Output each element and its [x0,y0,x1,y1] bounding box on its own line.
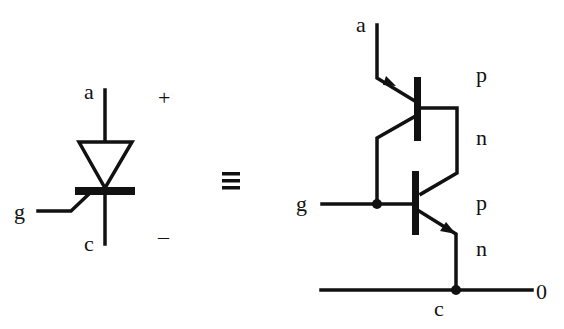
label-layer-p2: p [476,190,487,215]
scr-symbol: a + g c – [14,79,170,256]
equivalent-circuit: a g c 0 p n p n [296,12,547,321]
npn-transistor [412,171,456,290]
label-layer-n1: n [476,125,487,150]
pnp-emitter-arrow [383,76,396,86]
label-gate: g [296,191,307,216]
label-plus: + [158,85,170,110]
pnp-base-to-npn-collector [421,108,457,194]
label-anode: a [356,12,366,37]
gate-lead [38,194,89,211]
label-layer-p1: p [476,62,487,87]
label-minus: – [157,224,170,249]
diode-triangle [79,142,132,188]
label-anode: a [84,79,94,104]
label-layer-n2: n [476,236,487,261]
label-gate: g [14,199,25,224]
equivalence-sign [222,172,240,190]
label-cathode: c [434,296,444,321]
label-ground: 0 [536,279,547,304]
pnp-emitter-lead [377,25,415,101]
label-cathode: c [84,231,94,256]
scr-diagram: a + g c – a g c [0,0,564,329]
npn-emitter-lead [419,211,456,290]
pnp-collector-lead [377,117,414,204]
cathode-junction-dot [451,285,461,295]
gate-junction-dot [372,199,382,209]
